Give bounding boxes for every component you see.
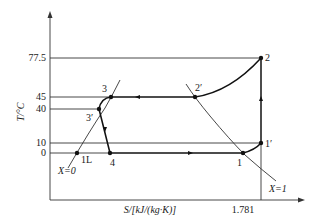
label-point-3: 3 — [102, 83, 107, 94]
x-axis-arrow-icon — [298, 198, 305, 203]
y-tick-77-5: 77.5 — [29, 52, 47, 63]
label-point-2prime: 2′ — [195, 82, 202, 93]
saturated-vapor-curve — [186, 84, 276, 181]
label-point-1L: 1L — [81, 154, 92, 165]
ts-diagram: 77.5 45 40 10 0 T/°C S/[kJ/(kg·K)] 1.781… — [0, 0, 313, 224]
point-3-marker — [109, 95, 113, 99]
point-4-marker — [108, 151, 112, 155]
process-1-1prime — [243, 143, 261, 153]
process-3prime-4 — [99, 109, 110, 153]
y-tick-45: 45 — [36, 91, 46, 102]
cycle-path — [99, 58, 263, 155]
arrow-icon — [259, 96, 263, 101]
state-points — [75, 56, 263, 155]
label-point-1prime: 1′ — [265, 138, 272, 149]
point-1prime-marker — [259, 141, 263, 145]
arrow-icon — [188, 151, 193, 155]
x-tick-1781: 1.781 — [232, 204, 255, 215]
y-axis-arrow-icon — [48, 11, 53, 18]
process-2-2prime — [195, 58, 261, 97]
x-axis-label: S/[kJ/(kg·K)] — [124, 204, 177, 216]
label-point-1: 1 — [237, 157, 242, 168]
label-point-2: 2 — [265, 52, 270, 63]
label-x1: X=1 — [268, 183, 287, 194]
label-x0: X=0 — [57, 165, 76, 176]
y-tick-40: 40 — [36, 103, 46, 114]
label-point-3prime: 3′ — [86, 112, 93, 123]
y-axis-label: T/°C — [15, 102, 26, 121]
y-tick-0: 0 — [41, 147, 46, 158]
point-1-marker — [241, 151, 245, 155]
isotherm-lines — [50, 58, 261, 200]
label-point-4: 4 — [110, 157, 115, 168]
point-2prime-marker — [193, 95, 197, 99]
point-2-marker — [259, 56, 263, 60]
point-3prime-marker — [97, 107, 101, 111]
point-1L-marker — [75, 151, 79, 155]
arrow-icon — [135, 95, 140, 99]
